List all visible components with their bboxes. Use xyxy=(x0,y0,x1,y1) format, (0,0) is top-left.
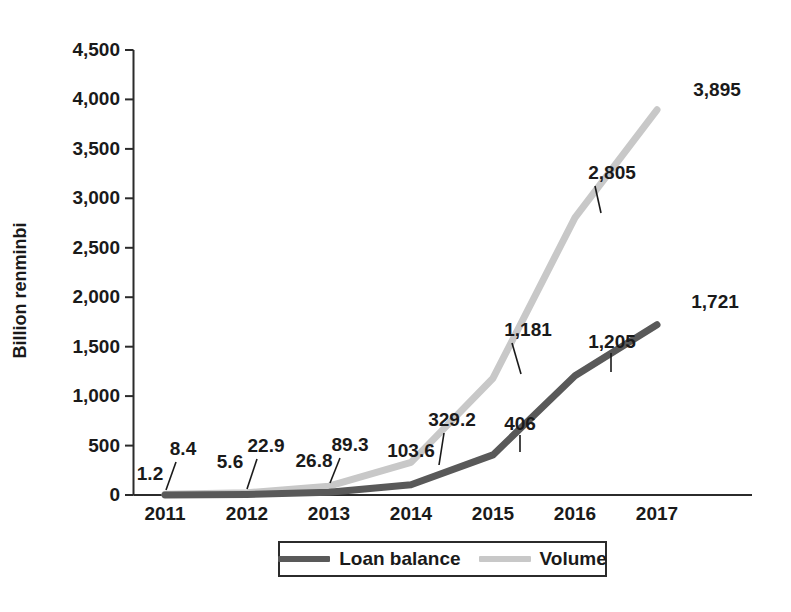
data-label-volume-2014: 329.2 xyxy=(428,409,476,431)
data-label-loan-2013: 26.8 xyxy=(296,450,333,472)
y-tick-label: 0 xyxy=(58,484,120,506)
data-label-loan-2015: 406 xyxy=(504,413,536,435)
y-axis-ticks xyxy=(125,50,134,495)
legend-swatch-volume xyxy=(479,556,531,562)
legend-item-loan-balance[interactable]: Loan balance xyxy=(278,548,460,570)
legend-item-volume[interactable]: Volume xyxy=(479,548,607,570)
y-tick-label: 2,000 xyxy=(58,286,120,308)
legend-label-loan-balance: Loan balance xyxy=(339,548,460,570)
y-tick-label: 2,500 xyxy=(58,237,120,259)
data-label-volume-2013: 89.3 xyxy=(332,434,369,456)
x-tick-label: 2015 xyxy=(472,503,514,525)
chart-legend: Loan balance Volume xyxy=(278,541,607,577)
legend-swatch-loan-balance xyxy=(278,556,330,562)
y-tick-label: 3,000 xyxy=(58,187,120,209)
y-tick-label: 4,500 xyxy=(58,39,120,61)
x-tick-label: 2013 xyxy=(308,503,350,525)
y-tick-label: 3,500 xyxy=(58,138,120,160)
x-tick-label: 2014 xyxy=(390,503,432,525)
y-axis-title: Billion renminbi xyxy=(10,222,31,358)
y-tick-label: 4,000 xyxy=(58,88,120,110)
y-tick-label: 1,000 xyxy=(58,385,120,407)
data-label-volume-2015: 1,181 xyxy=(504,319,552,341)
data-label-loan-2012: 5.6 xyxy=(217,451,243,473)
legend-label-volume: Volume xyxy=(540,548,607,570)
y-tick-label: 500 xyxy=(58,435,120,457)
x-tick-label: 2012 xyxy=(226,503,268,525)
data-label-loan-2014: 103.6 xyxy=(387,440,435,462)
data-label-volume-2016: 2,805 xyxy=(588,162,636,184)
data-label-volume-2011: 8.4 xyxy=(170,438,196,460)
data-label-loan-2017: 1,721 xyxy=(691,291,739,313)
x-tick-label: 2011 xyxy=(144,503,185,525)
series-line-volume xyxy=(165,110,657,494)
x-tick-label: 2017 xyxy=(636,503,678,525)
y-tick-label: 1,500 xyxy=(58,336,120,358)
data-label-loan-2011: 1.2 xyxy=(137,463,163,485)
chart-container: Billion renminbi 4,500 4,000 3,500 3,000… xyxy=(0,0,791,612)
data-label-volume-2017: 3,895 xyxy=(693,79,741,101)
data-label-volume-2012: 22.9 xyxy=(248,435,285,457)
data-label-loan-2016: 1,205 xyxy=(588,331,636,353)
x-tick-label: 2016 xyxy=(554,503,596,525)
